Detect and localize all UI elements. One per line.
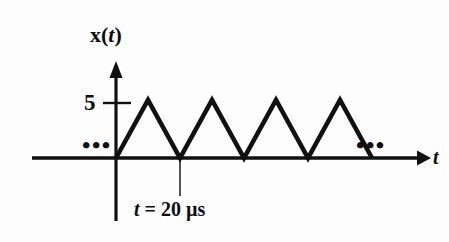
x-axis-arrowhead: [417, 151, 431, 166]
y-axis-arrowhead: [110, 61, 123, 78]
y-axis-label-suffix: ): [114, 22, 121, 47]
x-axis-label: t: [433, 147, 439, 167]
period-annotation: t = 20 µs: [134, 199, 205, 219]
y-axis-label: x(t): [90, 24, 122, 46]
waveform-svg: [0, 0, 449, 242]
y-axis-label-prefix: x(: [90, 22, 108, 47]
waveform-figure: x(t) 5 t t = 20 µs ••• •••: [0, 0, 449, 242]
period-annotation-value: = 20 µs: [140, 198, 206, 220]
ellipsis-left: •••: [82, 133, 112, 157]
amplitude-tick-label: 5: [84, 91, 96, 114]
ellipsis-right: •••: [356, 133, 386, 157]
triangular-waveform-trace: [116, 100, 372, 158]
